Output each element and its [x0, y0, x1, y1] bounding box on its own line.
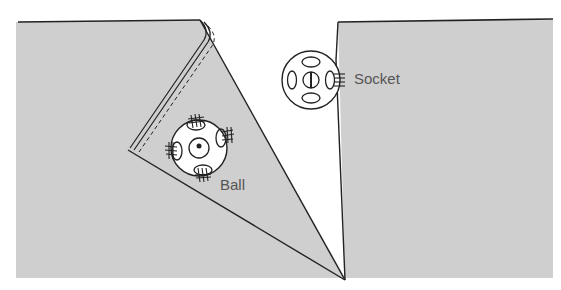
- socket-label: Socket: [354, 70, 400, 87]
- right-fabric-panel: [338, 20, 553, 278]
- ball-label: Ball: [220, 176, 245, 193]
- snap-fastener-diagram: Ball Socket: [0, 0, 561, 290]
